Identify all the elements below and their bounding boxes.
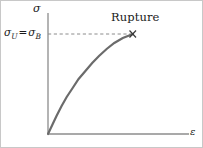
ultimate-stress-subscript-2: B bbox=[35, 32, 41, 41]
ultimate-stress-label: σU=σB bbox=[4, 27, 41, 41]
plot-area bbox=[1, 1, 203, 148]
rupture-annotation-label: Rupture bbox=[111, 12, 159, 24]
x-axis-label: ε bbox=[190, 127, 195, 137]
y-axis-label: σ bbox=[33, 3, 41, 14]
stress-strain-diagram: σ ε σU=σB Rupture bbox=[0, 0, 203, 148]
ultimate-stress-equals: = bbox=[18, 26, 29, 38]
stress-strain-curve bbox=[48, 34, 133, 134]
ultimate-stress-subscript-1: U bbox=[11, 32, 17, 41]
